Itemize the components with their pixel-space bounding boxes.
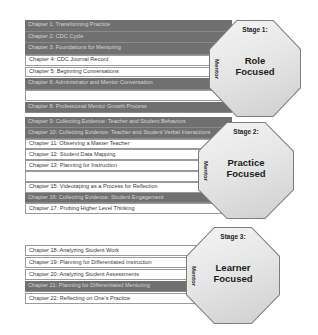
chapter-row: Chapter 21: Planning for Differentiated … <box>25 281 200 292</box>
chapter-row: Chapter 10: Collecting Evidence: Teacher… <box>25 128 232 139</box>
chapter-row: Chapter 18: Analyzing Student Work <box>25 245 200 256</box>
chapter-row: Chapter 20: Analyzing Student Assessment… <box>25 269 200 280</box>
chapter-row: Chapter 22: Reflecting on One's Practice <box>25 293 200 304</box>
stage-3-focus: Learner Focused <box>187 263 279 285</box>
stage-1-octagon: Stage 1: Role Focused Mentor <box>209 20 301 117</box>
chapter-row: Chapter 11: Observing a Master Teacher <box>25 139 232 150</box>
focus-line-2: Focused <box>226 168 265 179</box>
stage-3-chapter-list: Chapter 18: Analyzing Student Work Chapt… <box>25 245 200 305</box>
chapter-row: Chapter 17: Probing Higher Level Thinkin… <box>25 203 232 214</box>
stage-1-focus: Role Focused <box>210 56 300 78</box>
chapter-row: Chapter 2: CDC Cycle <box>25 32 232 44</box>
stage-3-label: Stage 3: <box>187 233 279 240</box>
chapter-row: Chapter 4: CDC Journal Record <box>25 55 232 66</box>
chapter-row: Chapter 19: Planning for Differentiated … <box>25 257 200 268</box>
focus-line-1: Role <box>245 55 266 66</box>
stage-2-focus: Practice Focused <box>199 158 293 180</box>
chapter-row-blank <box>25 90 232 101</box>
chapter-row: Chapter 6: Administrator and Mentor Conv… <box>25 78 232 90</box>
stage-2-mentor-label: Mentor <box>203 161 209 181</box>
focus-line-2: Focused <box>213 273 252 284</box>
focus-line-1: Practice <box>228 157 265 168</box>
chapter-row: Chapter 16: Collecting Evidence: Student… <box>25 193 232 204</box>
stage-1-chapter-list: Chapter 1: Transforming Practice Chapter… <box>25 20 232 113</box>
focus-line-1: Learner <box>216 262 251 273</box>
focus-line-2: Focused <box>235 66 274 77</box>
stage-3-octagon: Stage 3: Learner Focused Mentor <box>186 227 280 324</box>
chapter-row: Chapter 9: Collecting Evidence: Teacher … <box>25 117 232 128</box>
stage-3-mentor-label: Mentor <box>191 266 197 286</box>
stage-1-mentor-label: Mentor <box>214 59 220 79</box>
chapter-row: Chapter 8: Professional Mentor Growth Pr… <box>25 102 232 114</box>
chapter-row: Chapter 3: Foundations for Mentoring <box>25 43 232 55</box>
chapter-row: Chapter 5: Beginning Conversations <box>25 67 232 78</box>
chapter-row: Chapter 1: Transforming Practice <box>25 20 232 32</box>
